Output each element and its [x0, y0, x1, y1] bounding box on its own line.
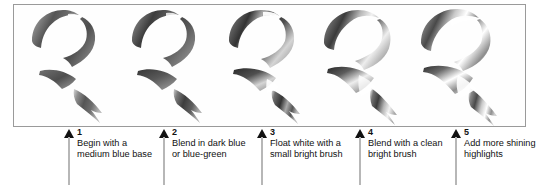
step-text-3: Float white with a small bright brush — [270, 138, 348, 161]
step-pointer-1 — [64, 127, 75, 185]
step-caption-row: 1 Begin with a medium blue base 2 Blend … — [0, 127, 536, 188]
pointer-stem — [163, 137, 165, 185]
brush-stroke-step-4 — [316, 5, 416, 126]
step-pointer-4 — [355, 127, 366, 185]
pointer-stem — [261, 137, 263, 185]
figure-root: 1 Begin with a medium blue base 2 Blend … — [0, 0, 536, 188]
brush-stroke-step-1 — [22, 5, 122, 126]
step-pointer-2 — [159, 127, 170, 185]
step-text-2: Blend in dark blue or blue-green — [172, 138, 250, 161]
step-number-2: 2 — [172, 127, 177, 137]
step-text-5: Add more shining highlights — [464, 138, 536, 161]
step-text-1: Begin with a medium blue base — [77, 138, 155, 161]
pointer-stem — [68, 137, 70, 185]
step-text-4: Blend with a clean bright brush — [368, 138, 446, 161]
step-number-5: 5 — [464, 127, 469, 137]
step-number-3: 3 — [270, 127, 275, 137]
brush-stroke-step-3 — [220, 5, 320, 126]
step-pointer-3 — [257, 127, 268, 185]
pointer-stem — [359, 137, 361, 185]
step-number-4: 4 — [368, 127, 373, 137]
pointer-stem — [455, 137, 457, 185]
illustration-panel — [13, 4, 526, 127]
brush-stroke-step-5 — [414, 5, 514, 126]
step-number-1: 1 — [77, 127, 82, 137]
brush-stroke-step-2 — [122, 5, 222, 126]
step-pointer-5 — [451, 127, 462, 185]
